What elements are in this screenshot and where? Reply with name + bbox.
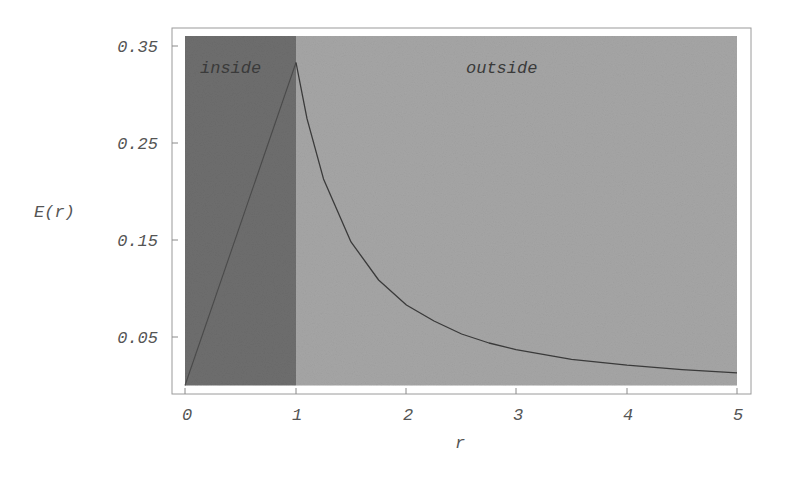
x-tick-label: 3 <box>513 406 523 425</box>
y-tick-label: 0.35 <box>117 38 158 57</box>
y-tick-labels: 0.35 0.25 0.15 0.05 <box>117 38 158 348</box>
region-label-inside: inside <box>200 59 261 78</box>
y-tick-label: 0.05 <box>117 329 158 348</box>
x-tick-label: 4 <box>623 406 633 425</box>
x-tick-label: 0 <box>182 406 192 425</box>
region-outside <box>296 36 737 386</box>
y-tick-label: 0.25 <box>117 135 158 154</box>
x-axis-label: r <box>455 434 465 453</box>
x-tick-labels: 0 1 2 3 4 5 <box>182 406 743 425</box>
chart-canvas: inside outside 0.35 0.25 0.15 0.05 0 1 2… <box>0 0 789 477</box>
y-axis-label: E(r) <box>34 203 75 222</box>
y-tick-label: 0.15 <box>117 232 158 251</box>
x-tick-label: 5 <box>733 406 743 425</box>
x-tick-label: 1 <box>292 406 302 425</box>
region-label-outside: outside <box>466 59 537 78</box>
region-inside <box>185 36 296 386</box>
x-tick-label: 2 <box>403 406 413 425</box>
